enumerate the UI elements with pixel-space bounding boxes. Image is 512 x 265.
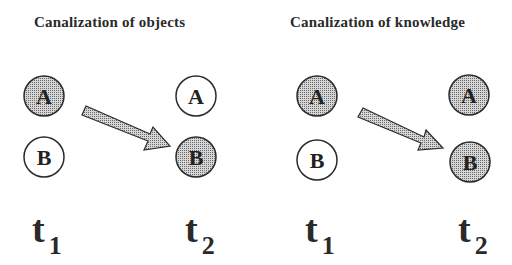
node-b-t1-objects: B — [24, 137, 64, 177]
svg-text:B: B — [189, 145, 204, 170]
svg-text:A: A — [36, 84, 52, 109]
node-a-t2-knowledge: A — [449, 75, 489, 115]
node-b-t2-objects: B — [176, 137, 216, 177]
svg-text:B: B — [463, 150, 478, 175]
node-a-t2-objects: A — [176, 76, 216, 116]
arrow-icon-knowledge — [358, 108, 443, 150]
time-label-t1-objects: t1 — [32, 210, 62, 259]
diagram-canvas: A B A B A B A B — [0, 0, 512, 265]
node-b-t1-knowledge: B — [297, 140, 337, 180]
arrow-icon-objects — [82, 106, 170, 150]
svg-text:B: B — [37, 145, 52, 170]
svg-text:A: A — [309, 84, 325, 109]
time-label-t2-objects: t2 — [185, 210, 215, 259]
node-a-t1-knowledge: A — [297, 76, 337, 116]
svg-text:B: B — [310, 148, 325, 173]
svg-text:A: A — [461, 83, 477, 108]
svg-text:A: A — [188, 84, 204, 109]
node-b-t2-knowledge: B — [450, 142, 490, 182]
time-label-t2-knowledge: t2 — [458, 210, 488, 259]
node-a-t1-objects: A — [24, 76, 64, 116]
time-label-t1-knowledge: t1 — [305, 210, 335, 259]
